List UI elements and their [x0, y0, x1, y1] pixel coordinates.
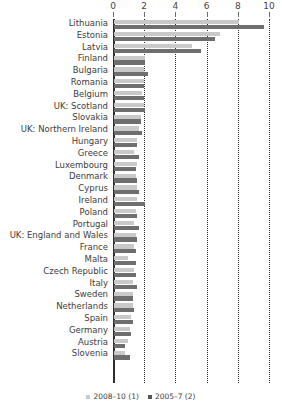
bar-series-2005-7: [114, 60, 145, 64]
bar-series-2005-7: [114, 355, 130, 359]
category-label: Finland: [78, 53, 108, 65]
bar-row: Estonia: [113, 31, 269, 43]
bar-series-2005-7: [114, 49, 201, 53]
legend-label-0: 2008–10 (1): [93, 392, 138, 401]
category-label: Germany: [69, 325, 108, 337]
bar-series-2008-10: [114, 280, 133, 284]
bar-series-2008-10: [114, 150, 134, 154]
bar-series-2008-10: [114, 292, 133, 296]
bar-series-2005-7: [114, 119, 141, 123]
bar-row: Slovakia: [113, 113, 269, 125]
bar-row: Latvia: [113, 43, 269, 55]
category-label: Czech Republic: [43, 266, 108, 278]
bar-series-2008-10: [114, 244, 134, 248]
category-label: Cyprus: [78, 183, 108, 195]
legend-item-1: 2005–7 (2): [148, 392, 196, 401]
bar-series-2008-10: [114, 162, 137, 166]
bar-row: Slovenia: [113, 349, 269, 361]
bar-row: Netherlands: [113, 302, 269, 314]
bar-series-2008-10: [114, 174, 136, 178]
bar-series-2008-10: [114, 303, 133, 307]
x-tick-label-6: 6: [204, 1, 210, 11]
bar-series-2005-7: [114, 72, 148, 76]
bar-series-2005-7: [114, 344, 125, 348]
x-tick-mark-6: [207, 12, 208, 17]
bar-series-2005-7: [114, 273, 136, 277]
bar-series-2005-7: [114, 167, 136, 171]
x-tick-label-2: 2: [141, 1, 147, 11]
category-label: Estonia: [77, 30, 108, 42]
bar-series-2005-7: [114, 108, 145, 112]
legend-label-1: 2005–7 (2): [155, 392, 196, 401]
bar-series-2005-7: [114, 131, 142, 135]
legend-swatch-icon-0: [86, 395, 90, 399]
bar-row: Greece: [113, 149, 269, 161]
x-tick-label-4: 4: [173, 1, 179, 11]
chart-legend: 2008–10 (1) 2005–7 (2): [0, 392, 282, 401]
bar-series-2008-10: [114, 268, 134, 272]
bar-series-2005-7: [114, 237, 137, 241]
bar-series-2005-7: [114, 261, 136, 265]
bar-series-2008-10: [114, 221, 134, 225]
bar-series-2005-7: [114, 226, 139, 230]
bar-series-2008-10: [114, 103, 144, 107]
bar-series-2008-10: [114, 197, 137, 201]
category-label: Hungary: [72, 136, 108, 148]
bar-series-2005-7: [114, 296, 133, 300]
bar-series-2005-7: [114, 37, 215, 41]
category-label: Poland: [80, 207, 108, 219]
bar-series-2005-7: [114, 308, 134, 312]
category-label: Malta: [85, 254, 108, 266]
bar-series-2005-7: [114, 332, 131, 336]
bar-series-2005-7: [114, 155, 139, 159]
bar-row: Austria: [113, 338, 269, 350]
bar-row: Finland: [113, 54, 269, 66]
bar-row: Sweden: [113, 290, 269, 302]
category-label: Denmark: [69, 171, 108, 183]
bar-series-2005-7: [114, 249, 136, 253]
bar-series-2008-10: [114, 91, 142, 95]
bar-series-2008-10: [114, 233, 136, 237]
bar-series-2008-10: [114, 327, 130, 331]
category-label: Sweden: [74, 289, 108, 301]
legend-item-0: 2008–10 (1): [86, 392, 138, 401]
category-label: UK: England and Wales: [10, 230, 108, 242]
bar-row: Portugal: [113, 220, 269, 232]
bar-series-2005-7: [114, 143, 137, 147]
bar-row: Belgium: [113, 90, 269, 102]
bar-row: Lithuania: [113, 19, 269, 31]
bar-series-2008-10: [114, 32, 220, 36]
category-label: France: [80, 242, 108, 254]
bar-series-2008-10: [114, 315, 131, 319]
x-tick-label-10: 10: [263, 1, 274, 11]
bar-series-2005-7: [114, 84, 144, 88]
category-label: Lithuania: [69, 18, 108, 30]
bar-series-2005-7: [114, 25, 264, 29]
bar-series-2008-10: [114, 256, 128, 260]
bar-row: Italy: [113, 279, 269, 291]
bar-series-2008-10: [114, 67, 144, 71]
bar-series-2008-10: [114, 351, 125, 355]
bar-series-2005-7: [114, 214, 137, 218]
category-label: Latvia: [82, 42, 108, 54]
bar-series-2008-10: [114, 339, 128, 343]
bar-series-2008-10: [114, 209, 136, 213]
bar-row: Hungary: [113, 137, 269, 149]
category-label: Luxembourg: [55, 160, 108, 172]
legend-swatch-icon-1: [148, 395, 152, 399]
bar-row: Czech Republic: [113, 267, 269, 279]
x-tick-label-8: 8: [235, 1, 241, 11]
gridline-10: [269, 19, 270, 383]
x-tick-mark-10: [269, 12, 270, 17]
bar-row: Malta: [113, 255, 269, 267]
category-label: Netherlands: [56, 301, 108, 313]
bar-series-2008-10: [114, 79, 144, 83]
category-label: Ireland: [79, 195, 108, 207]
bar-row: UK: Scotland: [113, 102, 269, 114]
x-tick-mark-8: [238, 12, 239, 17]
category-label: Romania: [71, 77, 108, 89]
bar-series-2008-10: [114, 126, 139, 130]
category-label: UK: Northern Ireland: [21, 124, 108, 136]
x-tick-mark-2: [144, 12, 145, 17]
bar-rows: LithuaniaEstoniaLatviaFinlandBulgariaRom…: [113, 19, 269, 383]
